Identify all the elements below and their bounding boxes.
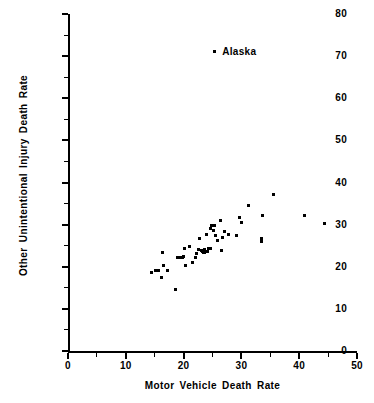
y-tick-label: 0 [341,346,347,356]
data-point [198,237,201,240]
y-tick-label: 80 [335,9,347,19]
x-tick-minor [328,353,329,357]
data-point [223,230,226,233]
x-axis-title: Motor Vehicle Death Rate [68,380,357,391]
data-point [221,236,224,239]
x-tick-label: 30 [226,361,256,371]
data-point [161,251,164,254]
y-tick-label: 10 [335,304,347,314]
y-tick-minor [64,119,68,120]
y-axis-title: Other Unintentional Injury Death Rate [18,61,29,291]
x-tick-major [298,353,300,359]
data-point [323,222,326,225]
data-point [182,255,185,258]
data-point [247,204,250,207]
y-tick-minor [64,161,68,162]
data-point [219,219,222,222]
y-tick-minor [64,287,68,288]
x-tick-major [240,353,242,359]
y-tick-label: 60 [335,93,347,103]
data-point [160,276,163,279]
data-point [260,237,263,240]
y-tick-minor [64,329,68,330]
data-point [150,271,153,274]
plot-area: 01020304050607080 01020304050 Alaska [68,14,357,353]
y-tick-minor [64,77,68,78]
x-tick-label: 0 [53,361,83,371]
data-point [261,214,264,217]
y-tick-minor [64,245,68,246]
data-point [205,233,208,236]
x-tick-major [183,353,185,359]
scatter-plot-figure: 01020304050607080 01020304050 Alaska Mot… [0,0,374,403]
x-tick-label: 40 [284,361,314,371]
data-point [162,264,165,267]
x-tick-major [125,353,127,359]
x-tick-label: 20 [169,361,199,371]
y-tick-major [62,139,68,141]
annotation-label-alaska: Alaska [222,46,256,57]
data-point [216,239,219,242]
x-tick-minor [154,353,155,357]
y-tick-major [62,308,68,310]
y-tick-label: 40 [335,178,347,188]
y-tick-minor [64,35,68,36]
x-tick-label: 10 [111,361,141,371]
data-point [157,269,160,272]
data-point [194,256,197,259]
y-tick-minor [64,203,68,204]
y-tick-label: 20 [335,262,347,272]
data-point [240,221,243,224]
y-tick-major [62,97,68,99]
data-point [209,247,212,250]
x-tick-minor [212,353,213,357]
data-point [191,261,194,264]
data-point [235,234,238,237]
data-point [213,224,216,227]
x-tick-minor [96,353,97,357]
data-point [195,252,198,255]
data-point [166,269,169,272]
y-tick-major [62,55,68,57]
y-tick-label: 30 [335,220,347,230]
y-tick-major [62,266,68,268]
y-tick-major [62,350,68,352]
y-tick-major [62,13,68,15]
data-point [184,264,187,267]
y-tick-major [62,224,68,226]
data-point [220,249,223,252]
y-tick-major [62,182,68,184]
x-tick-label: 50 [342,361,372,371]
x-tick-major [356,353,358,359]
data-point [206,250,209,253]
data-point [260,240,263,243]
data-point [303,214,306,217]
data-point [227,233,230,236]
data-point [214,234,217,237]
y-tick-label: 50 [335,135,347,145]
data-point [212,229,215,232]
y-axis-line [68,14,70,353]
data-point [188,245,191,248]
x-tick-minor [270,353,271,357]
data-point [272,193,275,196]
data-point [174,288,177,291]
y-tick-label: 70 [335,51,347,61]
data-point [238,216,241,219]
data-point [183,247,186,250]
data-point [213,50,216,53]
x-tick-major [67,353,69,359]
